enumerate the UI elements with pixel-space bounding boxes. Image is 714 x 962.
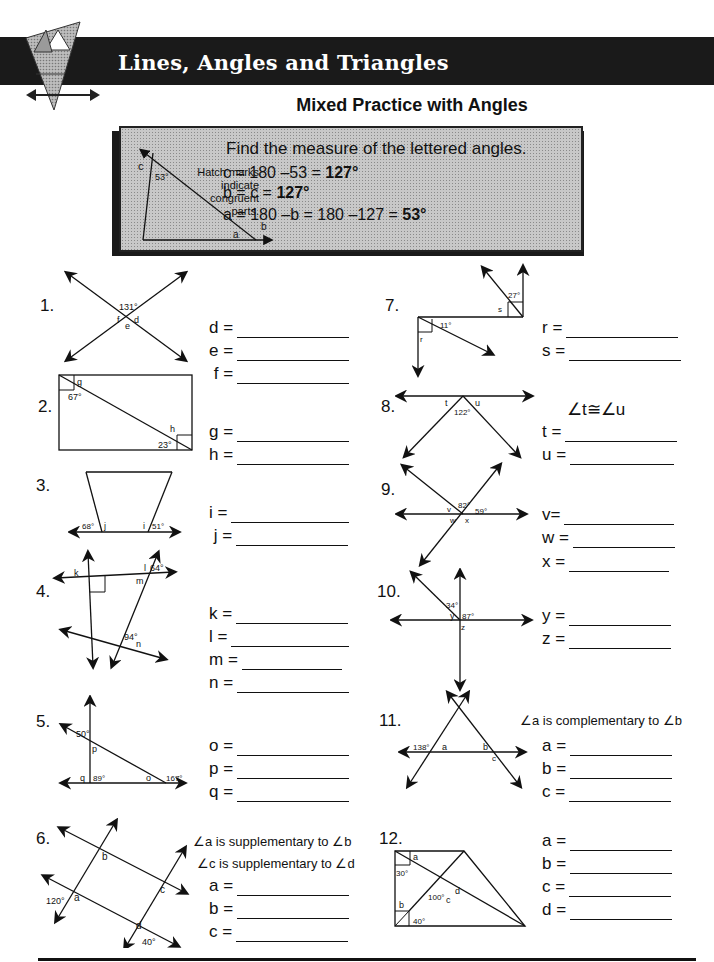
svg-text:122°: 122° [454,408,471,417]
answer-k[interactable]: k = [209,604,348,624]
answer-f[interactable]: f = [209,364,349,384]
problem-7-number: 7. [385,296,399,316]
problem-12-number: 12. [379,829,403,849]
answer-y[interactable]: y = [542,606,671,626]
problem-6-diagram: b a 120° c d 40° [38,818,198,948]
problem-2-diagram: g 67° h 23° [56,372,196,456]
example-box: c 53° a b Find the measure of the letter… [119,126,583,252]
svg-text:k: k [74,568,79,578]
svg-text:27°: 27° [508,291,520,300]
svg-text:67°: 67° [68,392,82,402]
answer-v[interactable]: v= [542,505,674,525]
answer-h[interactable]: h = [209,445,349,465]
answer-12b[interactable]: b = [542,854,672,874]
answer-d[interactable]: d = [209,318,349,338]
problem-12-diagram: a 30° 100° c d b 40° [392,848,532,930]
problem-10-diagram: 34° y 87° z [390,568,540,693]
answer-u[interactable]: u = [542,445,674,465]
page-subtitle: Mixed Practice with Angles [0,95,714,116]
answer-z[interactable]: z = [542,629,671,649]
answer-s[interactable]: s = [542,341,681,361]
answer-12d[interactable]: d = [542,900,672,920]
problem-1-number: 1. [40,296,54,316]
banner-title: Lines, Angles and Triangles [118,50,449,75]
answer-n[interactable]: n = [209,673,349,693]
example-step-2: b = c = 127° [223,184,309,202]
problem-3-diagram: 68° j i 51° [68,470,188,540]
example-step-1: c = 180 –53 = 127° [223,164,358,182]
problem-9-number: 9. [381,480,395,500]
svg-text:v: v [447,505,451,514]
svg-text:w: w [449,516,456,525]
svg-text:b: b [483,742,488,752]
answer-6c[interactable]: c = [209,922,348,942]
svg-text:82°: 82° [458,501,470,510]
answer-r[interactable]: r = [542,318,678,338]
svg-text:b: b [102,851,108,862]
problem-1-diagram: 131° f d e [55,265,195,365]
svg-text:34°: 34° [446,601,458,610]
problem-7-diagram: 27° s 11° r [410,262,540,382]
problem-5-number: 5. [36,712,50,732]
svg-text:131°: 131° [119,302,138,312]
svg-text:68°: 68° [82,522,94,531]
svg-text:40°: 40° [142,937,156,947]
problem-4-number: 4. [36,582,50,602]
answer-l[interactable]: l = [209,627,349,647]
svg-text:87°: 87° [462,612,474,621]
svg-text:o: o [146,773,151,783]
answer-11b[interactable]: b = [542,759,672,779]
svg-text:h: h [170,424,175,434]
svg-text:r: r [420,335,423,344]
problem-8-diagram: t u 122° [395,388,535,463]
svg-text:d: d [134,315,139,325]
svg-text:d: d [455,886,460,896]
svg-text:50°: 50° [76,729,90,739]
answer-12c[interactable]: c = [542,877,671,897]
svg-text:f: f [117,315,120,325]
svg-text:c: c [446,895,451,905]
problem-2-number: 2. [38,397,52,417]
svg-text:c: c [138,160,144,172]
svg-text:100°: 100° [428,893,445,902]
answer-w[interactable]: w = [542,528,675,548]
svg-text:d: d [136,920,142,931]
answer-e[interactable]: e = [209,341,349,361]
answer-11a[interactable]: a = [542,736,672,756]
svg-text:p: p [92,744,97,754]
svg-text:a: a [413,852,418,862]
svg-text:53°: 53° [155,172,169,182]
svg-text:t: t [445,398,448,408]
svg-text:b: b [399,900,404,910]
answer-11c[interactable]: c = [542,782,671,802]
svg-text:40°: 40° [413,917,425,926]
answer-g[interactable]: g = [209,422,349,442]
answer-i[interactable]: i = [209,503,349,523]
svg-text:y: y [450,611,455,621]
svg-text:e: e [125,321,130,331]
answer-12a[interactable]: a = [542,831,672,851]
svg-text:i: i [143,521,145,531]
svg-text:a: a [233,229,239,240]
svg-text:l: l [144,563,146,573]
answer-x[interactable]: x = [542,552,669,572]
answer-t[interactable]: t = [542,422,677,442]
answer-o[interactable]: o = [209,736,349,756]
answer-6a[interactable]: a = [209,876,349,896]
answer-m[interactable]: m = [209,650,342,670]
example-step-3: a = 180 –b = 180 –127 = 53° [223,206,426,224]
svg-text:g: g [77,377,82,387]
problem-5-diagram: 50° p q 89° o 167° [58,695,188,791]
answer-6b[interactable]: b = [209,899,349,919]
answer-p[interactable]: p = [209,759,349,779]
problem-6-note-1: ∠a is supplementary to ∠b [193,834,351,849]
svg-text:c: c [160,884,165,895]
svg-text:n: n [136,639,141,649]
svg-text:30°: 30° [396,869,408,878]
svg-text:51°: 51° [152,522,164,531]
answer-q[interactable]: q = [209,782,349,802]
problem-8-note: ∠t≅∠u [567,399,625,420]
svg-text:a: a [74,892,80,903]
answer-j[interactable]: j = [209,526,348,546]
svg-text:64°: 64° [150,563,164,573]
